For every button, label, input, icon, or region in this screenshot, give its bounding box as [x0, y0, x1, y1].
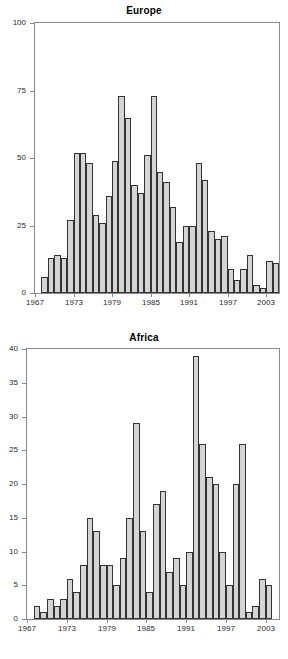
bar — [113, 585, 120, 619]
x-axis-label: 1991 — [166, 625, 206, 633]
y-axis-tick — [30, 293, 34, 294]
bar — [126, 518, 133, 619]
y-axis-tick — [30, 226, 34, 227]
y-axis-tick — [22, 518, 26, 519]
y-axis-label: 35 — [0, 379, 18, 387]
y-axis-label: 75 — [4, 87, 26, 95]
y-axis-label: 15 — [0, 514, 18, 522]
bar-series-africa — [27, 349, 279, 619]
y-axis-tick — [22, 417, 26, 418]
x-axis-tick — [266, 619, 267, 623]
bar — [87, 518, 94, 619]
bar — [100, 565, 107, 619]
bar — [73, 592, 80, 619]
y-axis-tick — [22, 619, 26, 620]
bar — [166, 572, 173, 619]
y-axis-tick — [30, 23, 34, 24]
bar — [54, 606, 61, 620]
x-axis-tick — [228, 293, 229, 297]
bar — [133, 423, 140, 619]
x-axis-label: 1985 — [126, 625, 166, 633]
bar — [107, 565, 114, 619]
bar — [120, 558, 127, 619]
bar — [226, 585, 233, 619]
y-axis-label: 25 — [0, 446, 18, 454]
y-axis-tick — [22, 383, 26, 384]
y-axis-tick — [30, 91, 34, 92]
x-axis-tick — [226, 619, 227, 623]
y-axis-tick — [22, 450, 26, 451]
y-axis-label: 20 — [0, 480, 18, 488]
x-axis-label: 1967 — [7, 625, 47, 633]
x-axis-label: 1997 — [208, 299, 248, 307]
x-axis-tick — [27, 619, 28, 623]
bar — [193, 356, 200, 619]
bar — [80, 565, 87, 619]
bar — [153, 504, 160, 619]
bar — [34, 606, 41, 620]
chart-title-europe: Europe — [0, 5, 288, 16]
x-axis-label: 1973 — [47, 625, 87, 633]
bar — [173, 558, 180, 619]
bar — [180, 585, 187, 619]
x-axis-tick — [35, 293, 36, 297]
y-axis-label: 40 — [0, 345, 18, 353]
plot-area-europe — [34, 22, 280, 294]
bar — [60, 599, 67, 619]
bar — [259, 579, 266, 620]
bar — [239, 444, 246, 620]
bar — [140, 531, 147, 619]
chart-title-africa: Africa — [0, 332, 288, 343]
y-axis-tick — [30, 158, 34, 159]
bar — [233, 484, 240, 619]
x-axis-label: 1967 — [15, 299, 55, 307]
x-axis-tick — [112, 293, 113, 297]
y-axis-label: 25 — [4, 222, 26, 230]
x-axis-label: 1985 — [131, 299, 171, 307]
bar — [186, 552, 193, 620]
y-axis-label: 0 — [4, 289, 26, 297]
y-axis-label: 5 — [0, 581, 18, 589]
bar — [246, 612, 253, 619]
bar — [67, 579, 74, 620]
bar — [252, 606, 259, 620]
x-axis-tick — [74, 293, 75, 297]
x-axis-label: 1973 — [54, 299, 94, 307]
x-axis-tick — [146, 619, 147, 623]
chart-panel-europe: Europe 025507510019671973197919851991199… — [0, 0, 288, 329]
bar — [273, 263, 279, 293]
x-axis-label: 1979 — [92, 299, 132, 307]
y-axis-tick — [22, 349, 26, 350]
x-axis-tick — [67, 619, 68, 623]
bar — [93, 531, 100, 619]
bar — [266, 585, 273, 619]
chart-page: Europe 025507510019671973197919851991199… — [0, 0, 288, 659]
x-axis-label: 1991 — [169, 299, 209, 307]
bar — [146, 592, 153, 619]
x-axis-tick — [266, 293, 267, 297]
x-axis-tick — [151, 293, 152, 297]
bar — [213, 484, 220, 619]
y-axis-label: 100 — [4, 19, 26, 27]
x-axis-label: 2003 — [246, 625, 286, 633]
bar — [160, 491, 167, 619]
y-axis-tick — [22, 552, 26, 553]
y-axis-label: 30 — [0, 413, 18, 421]
bar — [206, 477, 213, 619]
bar — [40, 612, 47, 619]
x-axis-tick — [107, 619, 108, 623]
plot-area-africa — [26, 348, 280, 620]
x-axis-label: 1997 — [206, 625, 246, 633]
bar-series-europe — [35, 23, 279, 293]
y-axis-label: 50 — [4, 154, 26, 162]
y-axis-tick — [22, 484, 26, 485]
chart-panel-africa: Africa 051015202530354019671973197919851… — [0, 329, 288, 659]
y-axis-tick — [22, 585, 26, 586]
x-axis-label: 2003 — [246, 299, 286, 307]
x-axis-tick — [189, 293, 190, 297]
x-axis-label: 1979 — [87, 625, 127, 633]
bar — [219, 552, 226, 620]
x-axis-tick — [186, 619, 187, 623]
bar — [199, 444, 206, 620]
bar — [47, 599, 54, 619]
